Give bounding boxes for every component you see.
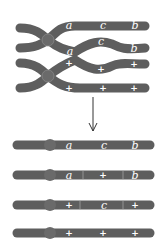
chromatid-after-4: + + + bbox=[17, 227, 150, 239]
chromatid-after-1: a c b bbox=[17, 139, 150, 152]
label-after-2-1: a bbox=[66, 169, 73, 182]
label-after-1-1: a bbox=[66, 139, 73, 152]
label-after-3-1: + bbox=[65, 200, 73, 210]
label-after-4-3: + bbox=[131, 228, 139, 238]
centromere-top bbox=[42, 34, 54, 46]
label-before-2a: a bbox=[67, 45, 74, 58]
down-arrow-icon bbox=[89, 97, 97, 131]
label-after-2-3: b bbox=[131, 169, 138, 182]
label-after-1-2: c bbox=[101, 139, 107, 152]
label-before-2c: c bbox=[98, 35, 104, 48]
label-before-4-2: + bbox=[99, 83, 107, 93]
label-before-4-1: + bbox=[65, 83, 73, 93]
label-after-1-3: b bbox=[131, 139, 138, 152]
chromosome-pair-top bbox=[20, 26, 145, 52]
chromatid-after-2: a + b bbox=[17, 169, 150, 182]
crossover-diagram: a c b a c b + + + + + + a c b a + b + c … bbox=[0, 0, 165, 250]
label-before-2b: b bbox=[130, 42, 137, 55]
label-after-2-2: + bbox=[99, 170, 107, 180]
label-before-3-3: + bbox=[130, 59, 138, 69]
label-before-3-2: + bbox=[97, 64, 105, 74]
centromere-bottom bbox=[42, 70, 54, 82]
label-before-4-3: + bbox=[130, 83, 138, 93]
label-before-3-1: + bbox=[65, 58, 73, 68]
label-after-3-3: + bbox=[131, 200, 139, 210]
chromosome-pair-bottom bbox=[20, 60, 145, 88]
label-after-3-2: c bbox=[101, 199, 107, 212]
chromatid-after-3: + c + bbox=[17, 199, 150, 212]
label-before-1c: c bbox=[100, 19, 106, 32]
label-before-1b: b bbox=[131, 19, 138, 32]
label-before-1a: a bbox=[66, 19, 73, 32]
label-after-4-2: + bbox=[99, 228, 107, 238]
label-after-4-1: + bbox=[65, 228, 73, 238]
